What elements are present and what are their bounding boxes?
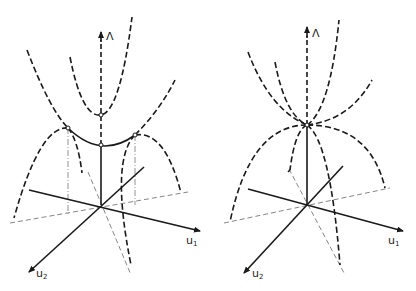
down-arc-left-outer [14, 128, 68, 218]
lambda-label: Λ [312, 27, 320, 40]
critical-point [99, 143, 103, 147]
critical-point [133, 133, 137, 137]
up-curve-outer-left [248, 52, 307, 125]
curve-end-hook [288, 170, 290, 172]
down-arc-right-inner [121, 135, 135, 265]
wide-parabola-left-arm [27, 50, 68, 128]
u2-axis [244, 166, 343, 273]
bifurcation-diagrams: Λ u1 u2 Λ u1 u2 [0, 0, 416, 291]
wide-parabola-right-arm [135, 80, 175, 135]
u1-label: u1 [186, 234, 197, 248]
down-curve-inner-left [290, 125, 307, 170]
critical-point [66, 126, 70, 130]
u2-axis [29, 167, 144, 272]
u1-axis [248, 189, 403, 231]
u2-label: u2 [36, 267, 47, 281]
right-diagram: Λ u1 u2 [224, 20, 403, 281]
u1-axis [29, 190, 200, 231]
down-curve-outer-left [230, 125, 307, 222]
down-curve-outer-right [307, 125, 385, 188]
critical-point [305, 123, 309, 127]
left-diagram: Λ u1 u2 [10, 17, 200, 281]
down-arc-right-outer [135, 135, 181, 193]
lambda-label: Λ [106, 30, 114, 43]
up-curve-outer-right [307, 80, 372, 125]
u2-label: u2 [252, 267, 263, 281]
u1-label: u1 [388, 234, 399, 248]
down-curve-inner-right [307, 125, 340, 265]
critical-point [99, 113, 103, 117]
